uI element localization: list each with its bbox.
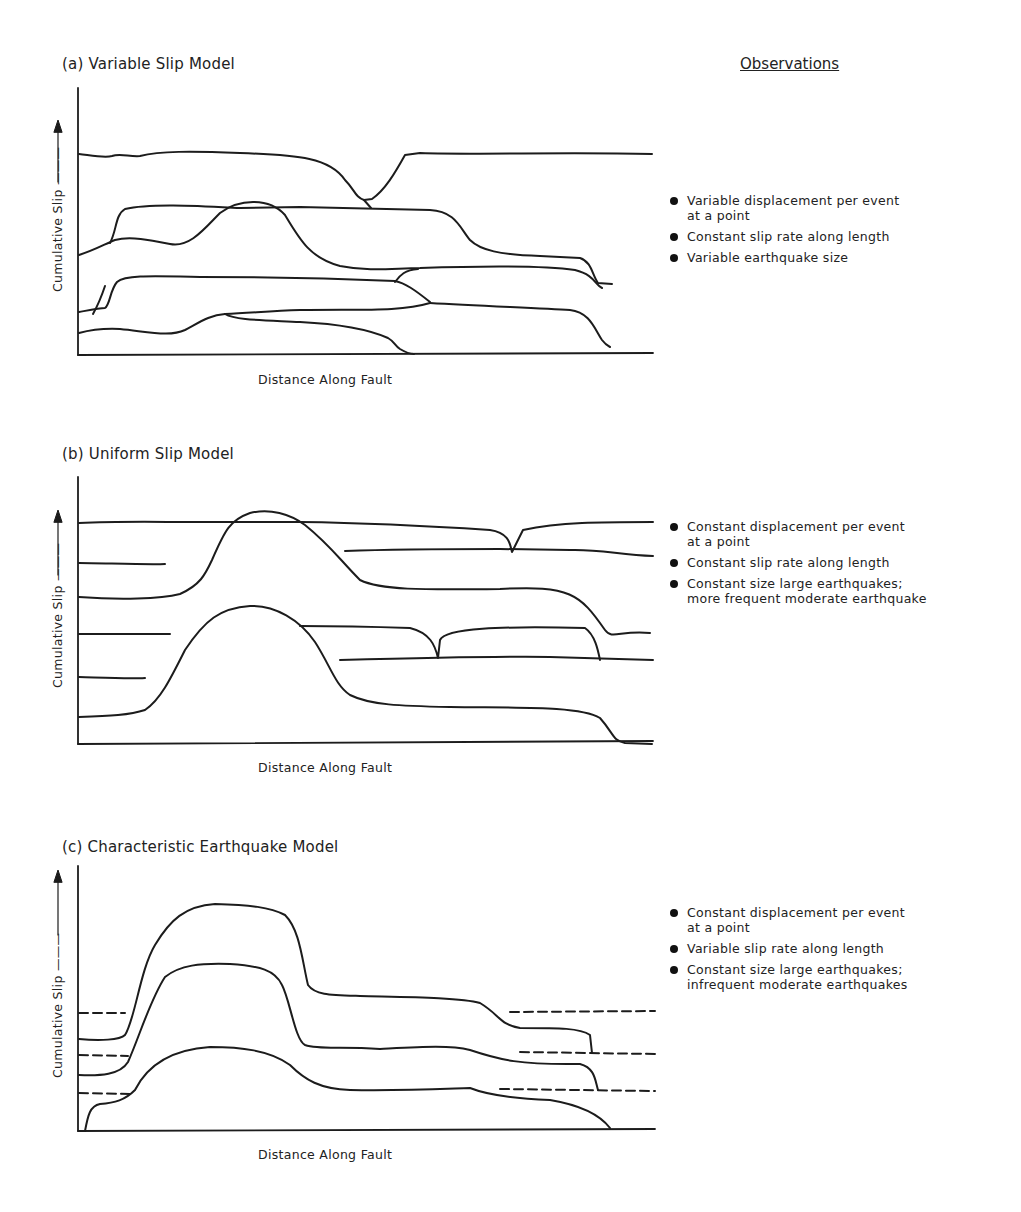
panel-c-dashed-line [79,1055,128,1056]
panel-c-observations: Constant displacement per eventat a poin… [670,905,908,998]
observation-item: Constant displacement per eventat a poin… [670,905,908,935]
bullet-icon [670,966,678,974]
panel-c-x-axis [78,1129,655,1131]
panel-c-profile [79,904,592,1053]
panel-c-dashed-line [79,1093,130,1094]
panel-c-dashed-line [520,1052,655,1054]
panel-c-profile [79,964,598,1090]
observation-item: Constant size large earthquakes;infreque… [670,962,908,992]
panel-c-diagram [0,0,1021,1212]
panel-c-dashed-line [500,1089,655,1091]
bullet-icon [670,909,678,917]
panel-c-arrow-head [54,870,62,882]
bullet-icon [670,945,678,953]
observation-item: Variable slip rate along length [670,941,908,956]
panel-c-dashed-line [510,1011,655,1012]
